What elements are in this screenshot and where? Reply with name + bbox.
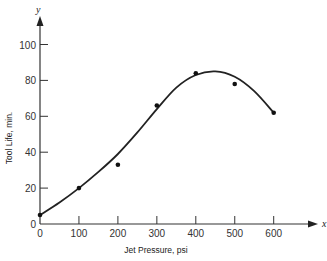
data-point (271, 110, 276, 115)
x-tick-label: 100 (71, 228, 88, 239)
x-tick-label: 200 (110, 228, 127, 239)
data-point (116, 162, 121, 167)
x-tick-label: 600 (265, 228, 282, 239)
data-point (77, 186, 82, 191)
y-tick-label: 80 (25, 75, 37, 86)
x-tick-label: 300 (149, 228, 166, 239)
y-axis-arrow-icon (37, 16, 44, 26)
y-tick-label: 60 (25, 111, 37, 122)
data-point (232, 82, 237, 87)
data-point (155, 103, 160, 108)
x-axis-name: x (321, 218, 327, 229)
y-axis-name: y (35, 4, 41, 15)
x-tick-label: 400 (187, 228, 204, 239)
x-axis-label: Jet Pressure, psi (124, 245, 187, 255)
chart: x y 0100200300400500600 020406080100 Jet… (0, 0, 327, 261)
y-axis-label: Tool Life, min. (4, 112, 14, 164)
x-tick-label: 500 (226, 228, 243, 239)
data-points (38, 71, 276, 217)
y-tick-label: 40 (25, 147, 37, 158)
x-axis-arrow-icon (308, 221, 318, 228)
x-tick-label: 0 (37, 228, 43, 239)
data-point (38, 213, 43, 218)
y-ticks: 020406080100 (19, 40, 48, 231)
x-ticks: 0100200300400500600 (37, 216, 282, 239)
fitted-curve (40, 71, 274, 215)
y-tick-label: 0 (30, 219, 36, 230)
y-tick-label: 20 (25, 183, 37, 194)
data-point (194, 71, 199, 76)
y-tick-label: 100 (19, 40, 36, 51)
